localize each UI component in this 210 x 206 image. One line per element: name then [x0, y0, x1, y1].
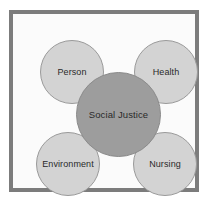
node-environment-label: Environment	[42, 160, 94, 169]
node-person-label: Person	[57, 68, 86, 77]
node-nursing-label: Nursing	[149, 160, 181, 169]
diagram-frame: Person Health Environment Nursing Social…	[9, 10, 199, 192]
node-health-label: Health	[153, 68, 180, 77]
node-social-justice-label: Social Justice	[89, 110, 148, 120]
diagram-canvas: Person Health Environment Nursing Social…	[0, 0, 210, 206]
node-social-justice[interactable]: Social Justice	[76, 72, 161, 157]
